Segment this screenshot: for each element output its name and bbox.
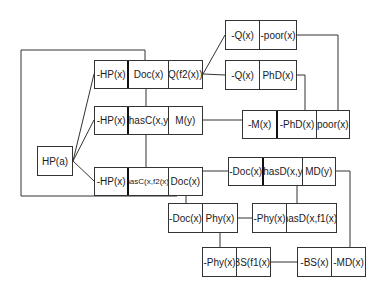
resolution-diagram: HP(a) -HP(x) Doc(x) Q(f2(x)) -HP(x) -has… <box>0 0 385 294</box>
edge-c1-c4 <box>203 35 225 74</box>
edge-root-c1 <box>73 74 94 161</box>
edge-root-c2 <box>73 120 94 161</box>
clause-c9: -Phy(x) hasD(x,f1(x)) <box>252 203 337 233</box>
literal: MD(y) <box>302 158 335 185</box>
edge-c5-c6 <box>297 75 305 110</box>
literal: -Phy(x) <box>203 248 236 276</box>
edge-c4-c6 <box>297 35 338 110</box>
literal: Doc(x) <box>127 61 167 88</box>
literal: M(y) <box>168 107 202 134</box>
clause-c11: -BS(x) -MD(x) <box>297 247 366 277</box>
literal: Phy(x) <box>202 204 237 232</box>
clause-c2: -HP(x) -hasC(x,y) M(y) <box>94 106 203 135</box>
literal: Q(f2(x)) <box>168 61 202 88</box>
literal: -Phy(x) <box>253 204 286 232</box>
clause-c3: -HP(x) hasC(x,f2(x)) Doc(x) <box>94 167 203 196</box>
literal: BS(f1(x)) <box>236 248 270 276</box>
literal: -Q(x) <box>226 21 259 49</box>
literal: -Doc(x) <box>229 158 262 185</box>
clause-c6: -M(x) -PhD(x) poor(x) <box>242 110 350 139</box>
literal: -Q(x) <box>226 61 259 89</box>
clause-c1: -HP(x) Doc(x) Q(f2(x)) <box>94 60 203 89</box>
literal: HP(a) <box>38 147 72 175</box>
clause-c5: -Q(x) PhD(x) <box>225 60 297 90</box>
clause-c7: -Doc(x) -hasD(x,y) MD(y) <box>228 157 336 186</box>
edge-c1-c5 <box>203 74 225 75</box>
literal: -BS(x) <box>298 248 331 276</box>
literal: -HP(x) <box>95 107 127 134</box>
literal: -PhD(x) <box>276 111 315 138</box>
literal: -poor(x) <box>259 21 296 49</box>
literal: hasC(x,f2(x)) <box>127 168 167 195</box>
literal: -HP(x) <box>95 61 127 88</box>
literal: Doc(x) <box>168 168 202 195</box>
clause-c8: -Doc(x) Phy(x) <box>168 203 238 233</box>
literal: -HP(x) <box>95 168 127 195</box>
literal: poor(x) <box>316 111 349 138</box>
literal: PhD(x) <box>259 61 296 89</box>
literal: -hasC(x,y) <box>127 107 167 134</box>
edge-root-c3 <box>73 161 94 181</box>
literal: -MD(x) <box>331 248 365 276</box>
edge-c7-c11 <box>336 171 350 247</box>
literal: -Doc(x) <box>169 204 202 232</box>
literal: hasD(x,f1(x)) <box>286 204 336 232</box>
clause-c10: -Phy(x) BS(f1(x)) <box>202 247 271 277</box>
literal: -M(x) <box>243 111 276 138</box>
clause-root: HP(a) <box>37 146 73 176</box>
clause-c4: -Q(x) -poor(x) <box>225 20 297 50</box>
literal: -hasD(x,y) <box>262 158 301 185</box>
